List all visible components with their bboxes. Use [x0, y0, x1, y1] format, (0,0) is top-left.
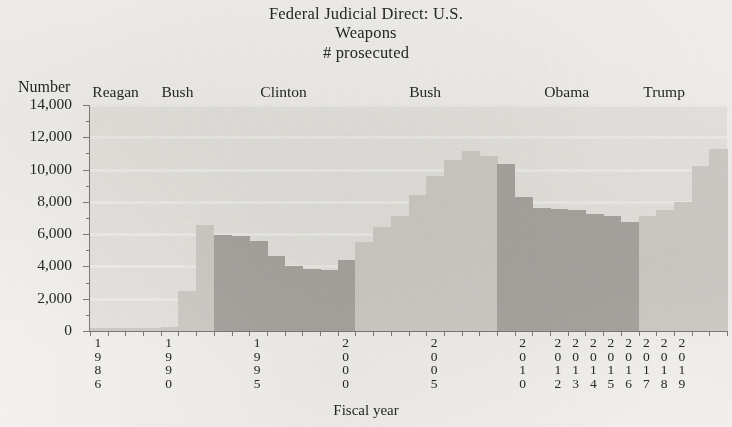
bar [320, 270, 338, 331]
bar [178, 291, 196, 331]
y-axis-tick [83, 202, 90, 203]
x-axis-tick-labels: 1986199019952000200520102012201320142015… [89, 336, 726, 402]
y-axis-tick-labels: 02,0004,0006,0008,00010,00012,00014,000 [0, 105, 82, 331]
bar [674, 202, 692, 331]
bar [639, 216, 657, 331]
y-axis-tick [83, 266, 90, 267]
x-axis-tick-label: 1986 [94, 336, 101, 390]
chart-title-line-2: Weapons [0, 23, 732, 42]
bar [656, 210, 674, 331]
y-axis-minor-tick [86, 121, 90, 122]
bar [108, 328, 126, 331]
administration-label: Bush [409, 83, 441, 101]
x-axis-tick-label: 2019 [678, 336, 685, 390]
bar [709, 149, 727, 331]
y-axis-tick-label: 0 [64, 321, 72, 339]
y-axis-minor-tick [86, 283, 90, 284]
x-axis-tick-label: 2012 [555, 336, 562, 390]
y-axis-tick [83, 137, 90, 138]
plot-area [89, 105, 727, 332]
bar [692, 166, 710, 331]
bar [338, 260, 356, 331]
y-axis-header: Number [18, 78, 70, 96]
gridline [90, 136, 727, 139]
bar [621, 222, 639, 331]
administration-label: Clinton [260, 83, 307, 101]
y-axis-tick [83, 299, 90, 300]
administration-label: Trump [643, 83, 685, 101]
bar [568, 210, 586, 331]
bar [585, 214, 603, 331]
bar [302, 269, 320, 331]
gridline [90, 169, 727, 172]
x-axis-tick-label: 2018 [661, 336, 668, 390]
administration-label-row: ReaganBushClintonBushObamaTrump [89, 83, 726, 103]
y-axis-tick-label: 4,000 [37, 256, 72, 274]
y-axis-minor-tick [86, 186, 90, 187]
bar [391, 216, 409, 331]
bar [497, 164, 515, 331]
y-axis-tick [83, 170, 90, 171]
bar [515, 197, 533, 331]
bar [355, 242, 373, 331]
y-axis-tick-label: 8,000 [37, 192, 72, 210]
administration-label: Reagan [92, 83, 138, 101]
y-axis-minor-tick [86, 153, 90, 154]
y-axis-minor-tick [86, 315, 90, 316]
x-axis-tick [727, 331, 728, 336]
chart-title-line-1: Federal Judicial Direct: U.S. [0, 4, 732, 23]
administration-label: Bush [162, 83, 194, 101]
x-axis-title: Fiscal year [0, 402, 732, 419]
bar [214, 235, 232, 331]
x-axis-tick-label: 2010 [519, 336, 526, 390]
bar [550, 209, 568, 331]
y-axis-tick-label: 10,000 [29, 160, 72, 178]
x-axis-tick-label: 2016 [625, 336, 632, 390]
chart-subtitle: # prosecuted [0, 43, 732, 62]
bar [444, 160, 462, 331]
y-axis-tick-label: 2,000 [37, 289, 72, 307]
bar [462, 151, 480, 331]
x-axis-tick-label: 2013 [572, 336, 579, 390]
administration-label: Obama [544, 83, 589, 101]
bar [90, 328, 108, 331]
y-axis-tick [83, 105, 90, 106]
y-axis-tick [83, 331, 90, 332]
bar [479, 156, 497, 331]
x-axis-tick-label: 2005 [431, 336, 438, 390]
bar [143, 328, 161, 331]
y-axis-tick [83, 234, 90, 235]
y-axis-minor-tick [86, 218, 90, 219]
bar [426, 176, 444, 331]
y-axis-tick-label: 14,000 [29, 95, 72, 113]
y-axis-tick-label: 6,000 [37, 224, 72, 242]
gridline [90, 104, 727, 107]
bar [232, 236, 250, 331]
bar [603, 216, 621, 331]
x-axis-tick-label: 2014 [590, 336, 597, 390]
bar [196, 225, 214, 331]
bar [161, 327, 179, 331]
x-axis-tick-label: 2000 [342, 336, 349, 390]
y-axis-minor-tick [86, 250, 90, 251]
bar [409, 195, 427, 331]
x-axis-tick-label: 2015 [608, 336, 615, 390]
bar [267, 256, 285, 331]
bar [249, 241, 267, 331]
x-axis-tick-label: 2017 [643, 336, 650, 390]
chart-title-block: Federal Judicial Direct: U.S. Weapons # … [0, 4, 732, 62]
bar [125, 328, 143, 331]
y-axis-tick-label: 12,000 [29, 127, 72, 145]
x-axis-tick-label: 1990 [165, 336, 172, 390]
bar [532, 208, 550, 331]
x-axis-tick-label: 1995 [254, 336, 261, 390]
bar [285, 266, 303, 331]
bar [373, 227, 391, 331]
